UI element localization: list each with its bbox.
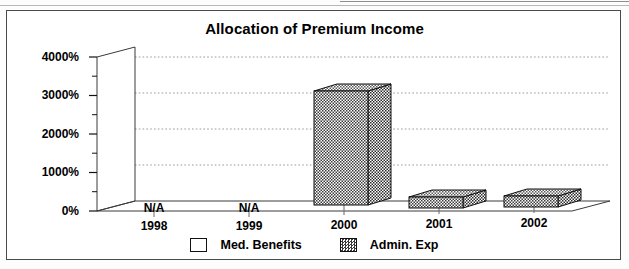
y-tick-label-1000: 1000% — [13, 166, 79, 178]
x-tick-label-1998: 1998 — [109, 220, 199, 232]
x-tick-label-2002: 2002 — [489, 217, 579, 229]
na-label-1998: N/A — [124, 202, 184, 214]
bar-2000-admin-exp — [314, 84, 391, 205]
legend-label-med-benefits: Med. Benefits — [220, 238, 301, 252]
y-tick-label-0: 0% — [13, 205, 79, 217]
x-tick-label-2001: 2001 — [394, 218, 484, 230]
axis-walls — [97, 47, 135, 211]
na-label-1999: N/A — [219, 202, 279, 214]
chart-screenshot: Allocation of Premium Income — [0, 0, 629, 269]
legend-swatch-icon-med-benefits — [190, 238, 207, 252]
legend-label-admin-exp: Admin. Exp — [370, 238, 439, 252]
plot-area: 4000% 3000% 2000% 1000% 0% N/A N/A 1998 … — [7, 11, 622, 261]
scan-artifact-line-secondary — [340, 1, 629, 2]
y-tick-label-2000: 2000% — [13, 128, 79, 140]
y-axis-ticks — [89, 57, 97, 211]
x-tick-label-2000: 2000 — [299, 219, 389, 231]
legend-swatch-icon-admin-exp — [340, 238, 357, 252]
legend-entry-admin-exp: Admin. Exp — [340, 238, 439, 252]
x-tick-label-1999: 1999 — [204, 220, 294, 232]
legend-entry-med-benefits: Med. Benefits — [190, 238, 301, 252]
chart-frame: Allocation of Premium Income — [6, 10, 621, 260]
y-tick-label-4000: 4000% — [13, 51, 79, 63]
chart-legend: Med. Benefits Admin. Exp — [7, 238, 622, 252]
scan-artifact-line — [0, 5, 629, 6]
y-tick-label-3000: 3000% — [13, 89, 79, 101]
